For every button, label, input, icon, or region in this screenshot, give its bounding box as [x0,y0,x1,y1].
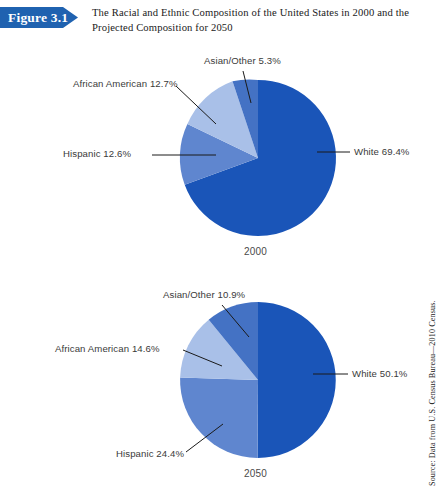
pie-chart-2050 [180,302,348,458]
pie-slice-white-2050 [258,302,336,458]
pie-label-white-2050: White 50.1% [352,368,408,379]
pie-label-hispanic-2000: Hispanic 12.6% [63,148,131,159]
pie-label-asian-other-2000: Asian/Other 5.3% [204,55,281,66]
pie-label-african-american-2000: African American 12.7% [73,78,178,89]
pie-charts-canvas [0,0,441,493]
pie-label-asian-other-2050: Asian/Other 10.9% [163,289,245,300]
pie-label-hispanic-2050: Hispanic 24.4% [116,448,184,459]
pie-year-label-2000: 2000 [244,246,267,257]
pie-chart-2000 [152,71,350,236]
source-credit: Source: Data from U.S. Census Bureau—201… [428,474,441,486]
pie-slice-hispanic-2050 [180,378,258,458]
figure-body: Asian/Other 5.3% African American 12.7% … [0,0,441,493]
pie-year-label-2050: 2050 [244,468,267,479]
pie-label-african-american-2050: African American 14.6% [55,343,160,354]
pie-label-white-2000: White 69.4% [354,146,410,157]
